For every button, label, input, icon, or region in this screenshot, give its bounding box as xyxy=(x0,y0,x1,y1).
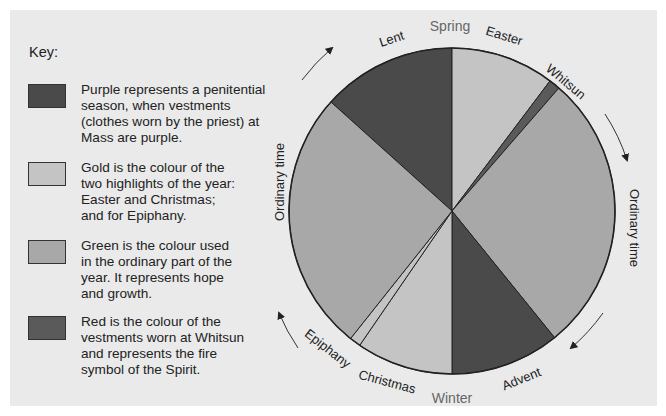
segment-label-lent: Lent xyxy=(377,28,406,50)
segment-label-advent: Advent xyxy=(500,364,544,393)
segment-label-christmas: Christmas xyxy=(357,367,418,397)
season-label-top: Spring xyxy=(430,18,470,34)
arrow-icon xyxy=(605,114,627,160)
arrow-icon xyxy=(279,313,298,348)
arrow-icon xyxy=(302,48,332,80)
wheel-segments xyxy=(289,48,615,374)
segment-label-ordinary-left: Ordinary time xyxy=(272,143,287,221)
segment-label-easter: Easter xyxy=(484,23,525,49)
season-label-bottom: Winter xyxy=(432,390,473,406)
liturgical-wheel: Spring Winter Lent Easter Whitsun Ordina… xyxy=(0,0,666,416)
segment-label-ordinary-right: Ordinary time xyxy=(627,189,642,267)
